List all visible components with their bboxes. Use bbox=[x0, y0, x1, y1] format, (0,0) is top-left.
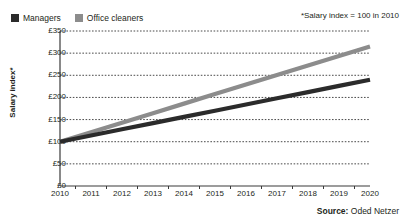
x-axis-tick-label: 2014 bbox=[167, 189, 201, 198]
series-lines bbox=[60, 47, 370, 142]
plot-area bbox=[60, 31, 370, 186]
x-axis-tick-label: 2012 bbox=[105, 189, 139, 198]
legend-label-managers: Managers bbox=[23, 14, 61, 23]
series-line-managers bbox=[60, 80, 370, 142]
legend-item-office-cleaners: Office cleaners bbox=[75, 14, 144, 23]
x-axis-tick-label: 2011 bbox=[74, 189, 108, 198]
series-line-office-cleaners bbox=[60, 47, 370, 142]
legend-item-managers: Managers bbox=[11, 14, 61, 23]
x-axis-tick-label: 2010 bbox=[43, 189, 77, 198]
chart-legend: Managers Office cleaners bbox=[11, 11, 143, 25]
plot-svg bbox=[60, 31, 370, 186]
source-value: Oded Netzer bbox=[351, 206, 399, 216]
salary-index-chart: Managers Office cleaners *Salary index =… bbox=[0, 0, 411, 224]
x-axis-tick-label: 2017 bbox=[260, 189, 294, 198]
gridlines bbox=[60, 31, 370, 164]
source-label: Source: bbox=[317, 206, 349, 216]
x-axis-tick-label: 2016 bbox=[229, 189, 263, 198]
x-axis-tick-label: 2013 bbox=[136, 189, 170, 198]
square-swatch-icon bbox=[75, 14, 83, 22]
x-axis-tick-label: 2018 bbox=[291, 189, 325, 198]
x-axis-tick-label: 2020 bbox=[353, 189, 387, 198]
source-credit: Source: Oded Netzer bbox=[317, 206, 399, 216]
x-axis-tick-labels: 2010201120122013201420152016201720182019… bbox=[60, 189, 370, 201]
y-axis-title: Salary index* bbox=[8, 58, 17, 128]
axis-lines bbox=[60, 31, 370, 186]
square-swatch-icon bbox=[11, 14, 19, 22]
legend-label-office-cleaners: Office cleaners bbox=[87, 14, 144, 23]
index-note: *Salary index = 100 in 2010 bbox=[301, 11, 399, 20]
x-axis-tick-label: 2015 bbox=[198, 189, 232, 198]
x-axis-tick-label: 2019 bbox=[322, 189, 356, 198]
